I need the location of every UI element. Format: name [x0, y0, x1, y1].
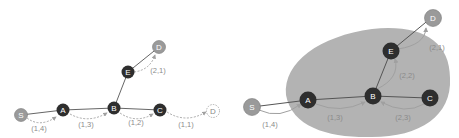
node-d-right-dashed: D: [207, 105, 220, 118]
flow-arrow-c-d: [167, 112, 206, 118]
svg-text:C: C: [157, 106, 163, 115]
edge-label-a-b: (1,3): [78, 120, 94, 129]
edge-label-e-d: (2,1): [150, 66, 166, 75]
svg-text:D: D: [210, 107, 216, 116]
svg-text:A: A: [305, 96, 311, 105]
svg-text:S: S: [249, 103, 254, 112]
svg-text:C: C: [427, 94, 433, 103]
edge-label-b-c: (1,2): [128, 118, 144, 127]
node-e: E: [383, 43, 400, 60]
node-c: C: [154, 104, 167, 117]
edge-b-c: [114, 108, 160, 110]
node-s: S: [244, 99, 261, 116]
node-a: A: [57, 104, 70, 117]
flow-arrow-a-b: [70, 113, 107, 119]
node-b: B: [108, 102, 121, 115]
node-e: E: [122, 66, 135, 79]
region-blob: [286, 28, 450, 137]
node-d-top: D: [153, 41, 166, 54]
left-graph: (1,4) (1,3) (1,2) (1,1) (2,1) S A B C E …: [15, 41, 220, 134]
svg-text:B: B: [111, 104, 116, 113]
edge-label-c-d: (1,1): [178, 120, 194, 129]
node-d: D: [425, 10, 442, 27]
svg-text:D: D: [430, 14, 436, 23]
right-graph: (1,4) (1,3) (2,3) (2,2) (2,1) S A B C E …: [244, 10, 451, 138]
flow-arrow-s-a: [27, 117, 56, 123]
edge-label-e-d: (2,1): [429, 43, 445, 52]
svg-text:B: B: [370, 92, 375, 101]
svg-text:E: E: [125, 68, 130, 77]
node-c: C: [422, 90, 439, 107]
svg-text:D: D: [156, 43, 162, 52]
edge-label-b-e: (2,2): [399, 71, 415, 80]
edge-label-s-a: (1,4): [262, 120, 278, 129]
edge-label-s-a: (1,4): [31, 124, 47, 133]
edge-label-c-b: (2,3): [395, 113, 411, 122]
edge-a-b: [63, 108, 114, 110]
node-a: A: [300, 92, 317, 109]
svg-text:E: E: [388, 47, 393, 56]
diagram-canvas: (1,4) (1,3) (1,2) (1,1) (2,1) S A B C E …: [0, 0, 459, 138]
node-b: B: [365, 88, 382, 105]
node-s: S: [15, 109, 28, 122]
svg-text:S: S: [18, 111, 23, 120]
svg-text:A: A: [60, 106, 66, 115]
edge-label-a-b: (1,3): [327, 113, 343, 122]
